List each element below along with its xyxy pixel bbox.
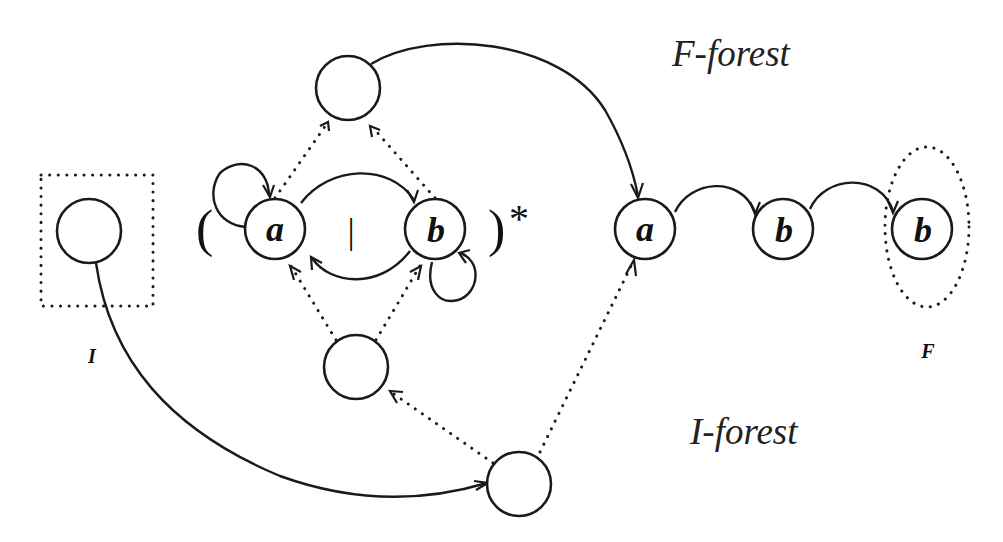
i-forest-label: I-forest (689, 411, 799, 452)
initial-set-label: I (87, 345, 97, 367)
dotted-bottom-to-a (291, 266, 336, 340)
open-paren: ( (196, 200, 213, 258)
f-forest-label: F-forest (671, 33, 792, 74)
left-b-label: b (427, 210, 445, 250)
state-bottom-right (487, 452, 551, 516)
state-top (316, 56, 380, 120)
dotted-bottom-to-b (376, 266, 420, 340)
right-b2-label: b (914, 210, 932, 250)
arrowhead-dotted-bottomcenter (390, 391, 403, 403)
edge-right-b-to-b (810, 183, 893, 211)
dotted-bottomright-to-right-a (540, 262, 633, 452)
left-a-label: a (266, 209, 284, 249)
edge-top-to-right-a (371, 44, 638, 196)
edge-right-a-to-b (675, 186, 755, 212)
state-bottom-center (324, 335, 388, 399)
kleene-star: * (509, 196, 529, 241)
state-initial (57, 199, 121, 263)
automaton-diagram: a b a b b ( | ) * F-forest I-forest I F (0, 0, 1003, 542)
right-b1-label: b (775, 210, 793, 250)
edge-i-to-bottom-right (96, 263, 487, 497)
right-a-label: a (636, 209, 654, 249)
final-set-label: F (920, 340, 935, 362)
arrowhead-dotted-top-right (370, 126, 380, 137)
edge-a-to-b-upper (301, 173, 414, 203)
dotted-bottomright-to-bottomcenter (391, 392, 493, 463)
close-paren: ) (488, 200, 505, 258)
alternation-bar: | (347, 211, 354, 251)
edge-b-to-a-lower (312, 251, 410, 279)
